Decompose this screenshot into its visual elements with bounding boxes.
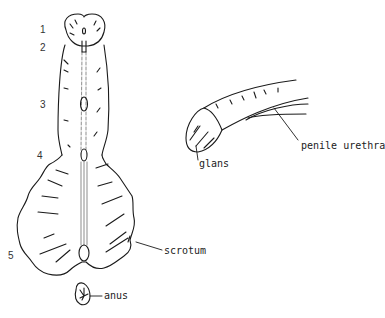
- position-number-4: 4: [37, 151, 43, 161]
- position-number-5: 5: [8, 251, 14, 261]
- leader-lines: [90, 108, 298, 296]
- anus-drawing: [75, 283, 90, 305]
- glans-front-view: [65, 14, 105, 52]
- label-anus: anus: [104, 291, 128, 301]
- position-number-3: 3: [40, 100, 46, 110]
- label-penile-urethra: penile urethra: [301, 141, 385, 151]
- position-number-2: 2: [40, 43, 46, 53]
- scrotum: [17, 155, 134, 275]
- penis-shaft: [58, 45, 109, 161]
- penile-urethra-leader: [274, 108, 298, 140]
- scrotum-leader: [136, 242, 162, 250]
- label-glans: glans: [199, 159, 229, 169]
- position-number-1: 1: [40, 25, 46, 35]
- lateral-penis: [186, 80, 308, 152]
- glans-leader: [196, 146, 198, 160]
- label-scrotum: scrotum: [164, 246, 206, 256]
